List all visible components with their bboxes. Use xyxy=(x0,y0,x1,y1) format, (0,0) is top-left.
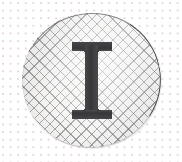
letter-fillet-bottom-right xyxy=(97,104,104,111)
letter-fillet-top-left xyxy=(79,50,86,57)
letter-layer: I xyxy=(0,0,182,162)
letter-fillet-top-right xyxy=(97,50,104,57)
letter-fillet-bottom-left xyxy=(79,104,86,111)
letter-bottom-serif xyxy=(72,110,112,119)
drop-cap-image: I xyxy=(0,0,182,162)
